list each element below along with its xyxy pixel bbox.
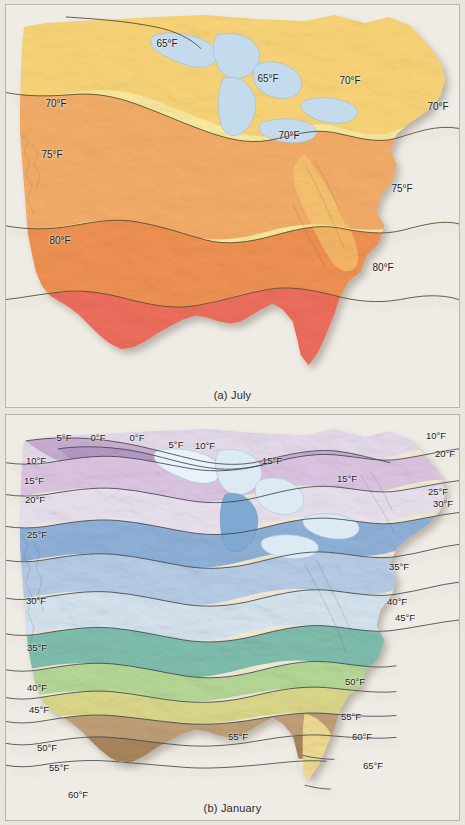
climate-map-figure: 65°F65°F70°F70°F70°F70°F75°F75°F80°F80°F… [0,0,465,825]
july-temperature-map [6,5,459,407]
july-map-stage: 65°F65°F70°F70°F70°F70°F75°F75°F80°F80°F [6,5,459,407]
january-map-stage: 5°F0°F0°F5°F10°F10°F20°F10°F15°F15°F15°F… [6,415,459,820]
july-caption: (a) July [6,389,459,401]
panel-january: 5°F0°F0°F5°F10°F10°F20°F10°F15°F15°F15°F… [5,414,460,821]
january-temperature-map [6,415,459,820]
january-caption: (b) January [6,802,459,814]
panel-july: 65°F65°F70°F70°F70°F70°F75°F75°F80°F80°F… [5,4,460,408]
